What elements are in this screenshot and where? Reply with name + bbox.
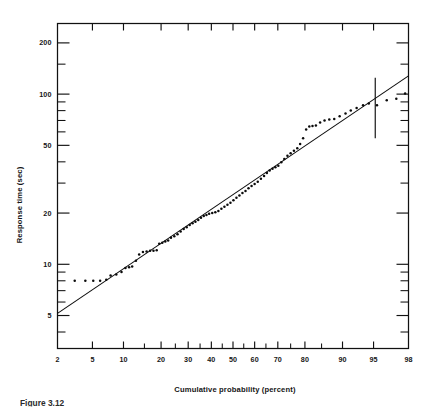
data-point-8 [124, 267, 127, 270]
lognormal-probability-plot: 251020304050607080909598 5102050100200 R… [0, 0, 429, 409]
x-axis-title: Cumulative probability (percent) [174, 385, 296, 394]
y-tick-label-50: 50 [43, 141, 51, 150]
x-tick-label-40: 40 [207, 355, 215, 364]
data-point-38 [217, 210, 220, 213]
data-point-58 [277, 164, 280, 167]
y-tick-label-10: 10 [43, 260, 51, 269]
data-point-49 [250, 185, 253, 188]
data-point-43 [232, 199, 235, 202]
data-point-80 [368, 102, 371, 105]
data-point-81 [376, 104, 379, 107]
data-point-19 [161, 241, 164, 244]
data-point-59 [280, 161, 283, 164]
x-tick-label-50: 50 [229, 355, 237, 364]
data-point-26 [182, 228, 185, 231]
data-point-18 [158, 243, 161, 246]
x-tick-label-70: 70 [274, 355, 282, 364]
data-point-12 [138, 253, 141, 256]
data-point-47 [244, 190, 247, 193]
x-tick-label-60: 60 [251, 355, 259, 364]
data-point-83 [395, 97, 398, 100]
data-point-69 [311, 125, 314, 128]
y-tick-label-5: 5 [47, 311, 51, 320]
data-point-56 [271, 168, 274, 171]
data-point-24 [176, 233, 179, 236]
y-axis-title: Response time (sec) [15, 166, 24, 243]
data-point-39 [220, 208, 223, 211]
data-point-66 [302, 137, 305, 140]
data-point-25 [179, 230, 182, 233]
data-point-54 [266, 172, 269, 175]
data-point-3 [99, 280, 102, 283]
data-point-84 [404, 92, 407, 95]
data-point-70 [315, 124, 318, 127]
x-tick-label-30: 30 [184, 355, 192, 364]
data-point-22 [170, 237, 173, 240]
data-point-44 [235, 197, 238, 200]
figure-root: 251020304050607080909598 5102050100200 R… [0, 0, 429, 409]
x-tick-label-90: 90 [338, 355, 346, 364]
data-point-29 [191, 222, 194, 225]
data-point-42 [229, 201, 232, 204]
data-point-74 [333, 118, 336, 121]
data-point-32 [200, 216, 203, 219]
x-tick-label-5: 5 [90, 355, 94, 364]
data-point-57 [274, 166, 277, 169]
data-point-45 [238, 194, 241, 197]
data-point-20 [164, 240, 167, 243]
data-point-61 [286, 155, 289, 158]
data-point-67 [305, 128, 308, 131]
data-point-50 [253, 183, 256, 186]
data-point-13 [142, 251, 145, 254]
data-point-64 [296, 147, 299, 150]
data-point-75 [338, 115, 341, 118]
data-point-48 [247, 187, 250, 190]
data-point-82 [385, 99, 388, 102]
data-point-63 [293, 150, 296, 153]
data-point-35 [208, 213, 211, 216]
data-point-21 [167, 239, 170, 242]
data-point-40 [223, 205, 226, 208]
data-point-10 [131, 265, 134, 268]
data-point-30 [194, 220, 197, 223]
data-point-36 [211, 212, 214, 215]
data-point-52 [260, 178, 263, 181]
x-tick-label-98: 98 [404, 355, 412, 364]
data-point-60 [283, 158, 286, 161]
data-point-65 [299, 143, 302, 146]
figure-caption: Figure 3.12 [20, 398, 65, 408]
data-point-77 [350, 109, 353, 112]
data-point-46 [241, 192, 244, 195]
data-point-41 [226, 203, 229, 206]
data-point-5 [109, 274, 112, 277]
data-point-14 [145, 250, 148, 253]
data-point-16 [152, 250, 155, 253]
data-point-53 [263, 175, 266, 178]
data-point-1 [84, 280, 87, 283]
data-point-6 [115, 273, 118, 276]
data-point-62 [289, 152, 292, 155]
data-point-68 [308, 125, 311, 128]
data-point-72 [323, 119, 326, 122]
x-tick-label-20: 20 [157, 355, 165, 364]
figure-background [0, 0, 429, 409]
data-point-31 [197, 219, 200, 222]
data-point-0 [73, 280, 76, 283]
data-point-51 [257, 180, 260, 183]
x-tick-label-95: 95 [369, 355, 377, 364]
y-tick-label-100: 100 [39, 90, 51, 99]
data-point-23 [173, 235, 176, 238]
data-point-33 [202, 215, 205, 218]
data-point-28 [188, 224, 191, 227]
data-point-27 [185, 226, 188, 229]
x-tick-label-10: 10 [119, 355, 127, 364]
y-tick-label-20: 20 [43, 209, 51, 218]
data-point-17 [155, 249, 158, 252]
data-point-15 [149, 250, 152, 253]
x-tick-label-80: 80 [301, 355, 309, 364]
data-point-9 [128, 266, 131, 269]
data-point-34 [205, 214, 208, 217]
y-tick-label-200: 200 [39, 38, 51, 47]
x-tick-label-2: 2 [55, 355, 59, 364]
data-point-37 [214, 211, 217, 214]
